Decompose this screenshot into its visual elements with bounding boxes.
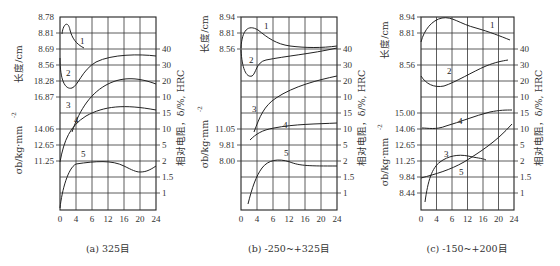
left-tick: 8.94 [219,12,235,22]
right-axis-title: 相对电阻，δ/%, HRC [175,70,186,167]
caption-a: (a) 325目 [86,243,130,254]
x-tick: 12 [463,214,472,224]
left-tick: 8.69 [38,44,54,54]
left-axis-title-top: 长度/cm [379,21,390,59]
curve-label-2: 2 [66,68,71,78]
curve-label-3: 3 [444,149,449,159]
x-tick: 6 [90,214,95,224]
x-tick: 12 [285,214,294,224]
curve-label-1: 1 [490,20,495,30]
left-tick: 16.87 [34,92,55,102]
panel-a-grid [56,17,160,210]
left-tick: 18.28 [34,76,55,86]
right-tick: 2 [520,156,525,166]
curve-label-3: 3 [252,104,257,114]
x-tick: 6 [271,214,276,224]
left-axis-title-sup: -2 [376,124,383,130]
left-tick: 8.56 [38,60,54,70]
left-axis-title-sup: -2 [196,106,203,112]
right-tick: 30 [520,60,530,70]
curve-label-5: 5 [459,167,464,177]
curve-label-2: 2 [447,66,452,76]
curve-label-1: 1 [80,36,85,46]
curve-label-4: 4 [283,120,288,130]
left-axis-title-top: 长度/cm [13,45,24,83]
right-tick: 40 [520,44,530,54]
right-tick: 5 [162,140,167,150]
curve-3 [425,155,486,202]
left-axis-title-top: 长度/cm [199,15,210,53]
right-tick: 20 [343,76,353,86]
left-tick: 11.25 [395,156,415,166]
x-tick: 12 [104,214,113,224]
curve-label-5: 5 [284,148,289,158]
left-tick: 11.25 [34,156,54,166]
caption-c: (c) -150~+200目 [426,243,507,254]
left-tick: 8.94 [399,12,415,22]
left-tick: 8.00 [219,156,235,166]
panel-a: 8.78 8.81 8.69 8.56 18.28 16.87 14.06 12… [10,12,186,254]
left-tick: 8.56 [219,44,235,54]
x-tick: 4 [434,214,439,224]
curve-label-1: 1 [264,21,269,31]
left-tick: 15.00 [395,108,416,118]
left-tick: 9.81 [219,140,235,150]
curve-label-4: 4 [74,115,79,125]
left-tick: 8.78 [38,12,54,22]
left-tick: 8.81 [399,28,415,38]
figure: 8.78 8.81 8.69 8.56 18.28 16.87 14.06 12… [0,0,560,266]
right-tick: 1 [520,188,525,198]
panel-c-grid [417,17,518,210]
caption-b: (b) -250~+325目 [248,243,330,254]
right-tick: 5 [520,140,525,150]
right-axis-title: 相对电阻，δ/%, HRC [356,70,367,167]
right-tick: 40 [162,44,172,54]
right-tick: 10 [343,124,353,134]
curve-5 [248,160,337,204]
right-tick: 15 [343,108,353,118]
x-tick: 16 [301,214,311,224]
left-tick: 14.06 [395,124,416,134]
right-tick: 2 [343,156,348,166]
right-tick: 15 [520,108,530,118]
left-tick: 8.81 [219,28,235,38]
x-tick: 24 [333,214,343,224]
right-tick: 1 [162,188,167,198]
right-tick: 1.5 [162,172,174,182]
x-tick: 16 [120,214,130,224]
right-tick: 10 [162,124,172,134]
left-axis-title-bottom: σb/kg·mm [13,126,24,175]
x-tick: 0 [58,214,63,224]
x-tick: 24 [510,214,520,224]
right-tick: 20 [162,76,172,86]
curve-1 [421,18,510,42]
left-tick: 12.65 [34,140,55,150]
curve-2 [421,60,508,87]
x-tick: 20 [136,214,146,224]
x-tick: 4 [74,214,79,224]
right-tick: 10 [520,124,530,134]
x-tick: 16 [479,214,489,224]
left-axis-title-bottom: σb/kg·mm [199,120,210,169]
x-tick: 0 [419,214,424,224]
left-axis-title-sup: -2 [10,112,17,118]
left-tick: 8.56 [399,60,415,70]
right-tick: 1.5 [520,172,532,182]
curve-label-5: 5 [81,149,86,159]
right-tick: 10 [520,92,530,102]
right-tick: 2 [162,156,167,166]
x-tick: 0 [239,214,244,224]
right-tick: 40 [343,44,353,54]
right-tick: 1.5 [343,172,355,182]
left-tick: 9.84 [399,172,415,182]
left-tick: 8.81 [38,28,54,38]
x-tick: 24 [152,214,162,224]
left-tick: 14.06 [34,124,55,134]
right-tick: 20 [520,76,530,86]
right-tick: 1 [343,188,348,198]
right-axis-title: 相对电阻，δ/%, HRC [533,70,544,167]
panel-b: 8.94 8.81 8.56 11.05 9.81 8.00 40 30 20 … [196,12,367,254]
curve-label-4: 4 [458,116,463,126]
left-tick: 8.44 [399,188,415,198]
x-tick: 20 [494,214,504,224]
